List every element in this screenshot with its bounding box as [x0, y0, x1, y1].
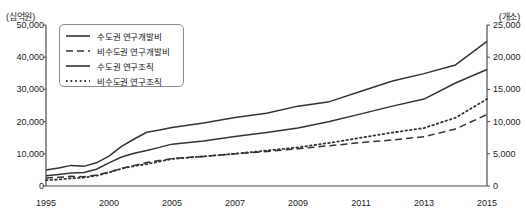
legend-item: 비수도권 연구조직 [65, 74, 178, 88]
legend-line-solid-icon [65, 31, 91, 41]
legend-label: 수도권 연구조직 [97, 60, 154, 72]
legend-label: 수도권 연구개발비 [97, 30, 162, 42]
legend-line-solid-icon [65, 61, 91, 71]
legend-item: 수도권 연구조직 [65, 59, 178, 73]
legend-line-dotted-icon [65, 76, 91, 86]
legend-label: 비수도권 연구조직 [97, 75, 162, 87]
legend-item: 수도권 연구개발비 [65, 29, 178, 43]
legend-line-dashed-icon [65, 46, 91, 56]
series-line [46, 99, 487, 180]
legend-label: 비수도권 연구개발비 [97, 45, 169, 57]
legend-item: 비수도권 연구개발비 [65, 44, 178, 58]
series-line [46, 115, 487, 178]
legend: 수도권 연구개발비 비수도권 연구개발비 수도권 연구조직 비수도권 연구조직 [59, 24, 184, 87]
chart-container: (십억원) (개소) 010,00020,00030,00040,00050,0… [0, 0, 526, 218]
